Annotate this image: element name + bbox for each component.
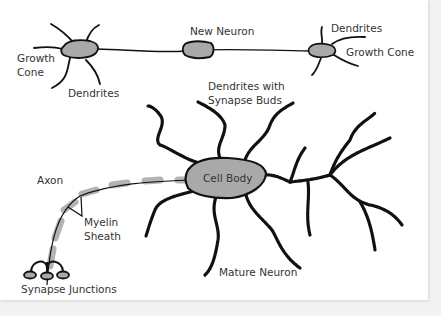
label-new-neuron: New Neuron <box>190 25 254 38</box>
label-growth-cone-right: Growth Cone <box>346 46 414 59</box>
neuron-diagram <box>0 0 428 300</box>
diagram-card: New Neuron Growth Cone Dendrites Dendrit… <box>0 0 428 300</box>
label-growth-cone-left-2: Cone <box>17 66 44 79</box>
label-dendrites-synapse-1: Dendrites with <box>208 80 285 93</box>
label-mature-neuron: Mature Neuron <box>219 266 297 279</box>
label-dendrites-right: Dendrites <box>331 22 382 35</box>
label-axon: Axon <box>37 174 63 187</box>
label-dendrites-left: Dendrites <box>68 87 119 100</box>
label-growth-cone-left-1: Growth <box>17 52 55 65</box>
label-dendrites-synapse-2: Synapse Buds <box>208 94 282 107</box>
label-myelin-2: Sheath <box>84 230 121 243</box>
label-myelin-1: Myelin <box>84 216 118 229</box>
label-cell-body: Cell Body <box>203 172 252 185</box>
label-synapse-junctions: Synapse Junctions <box>21 283 117 296</box>
